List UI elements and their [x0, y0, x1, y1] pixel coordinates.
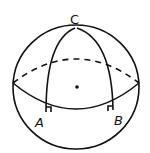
equator-back — [13, 59, 139, 83]
label-b: B — [114, 113, 123, 128]
meridian-right — [77, 28, 113, 110]
label-a: A — [34, 115, 44, 130]
center-dot — [75, 85, 79, 89]
sphere-diagram: C A B — [0, 0, 150, 153]
label-c: C — [70, 12, 79, 27]
meridian-left — [46, 28, 75, 112]
